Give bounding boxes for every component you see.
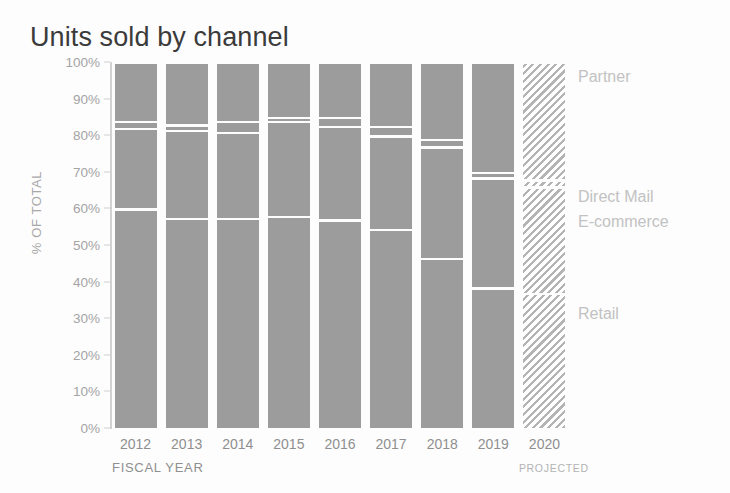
bar-segment-partner[interactable] xyxy=(115,64,157,120)
bar-segment-retail[interactable] xyxy=(115,211,157,428)
projected-annotation: PROJECTED xyxy=(519,462,570,474)
x-axis-tick-label: 2015 xyxy=(263,436,314,452)
bar-segment-e-commerce[interactable] xyxy=(115,130,157,208)
bar-segment-direct-mail[interactable] xyxy=(268,119,310,120)
page-title: Units sold by channel xyxy=(30,22,289,53)
x-axis-tick-label: 2014 xyxy=(212,436,263,452)
bar-column[interactable] xyxy=(370,62,412,428)
bar-segment-direct-mail[interactable] xyxy=(523,182,565,187)
y-axis-tick-label: 100% xyxy=(50,55,100,70)
bar-segment-e-commerce[interactable] xyxy=(166,132,208,217)
bar-segment-partner[interactable] xyxy=(421,64,463,138)
bar-segment-retail[interactable] xyxy=(217,220,259,428)
y-axis-tick-label: 80% xyxy=(50,128,100,143)
y-axis-tick-label: 90% xyxy=(50,91,100,106)
bar-segment-partner[interactable] xyxy=(370,64,412,126)
bar-segment-retail[interactable] xyxy=(166,220,208,428)
legend-label-retail: Retail xyxy=(578,305,619,323)
bar-segment-retail[interactable] xyxy=(268,218,310,428)
bar-segment-partner[interactable] xyxy=(319,64,361,117)
bar-stack xyxy=(523,62,565,428)
bar-stack xyxy=(217,62,259,428)
bar-column[interactable] xyxy=(319,62,361,428)
bar-segment-direct-mail[interactable] xyxy=(319,119,361,126)
bar-segment-partner[interactable] xyxy=(268,64,310,117)
bar-segment-retail[interactable] xyxy=(472,290,514,429)
chart-canvas: Units sold by channel % OF TOTAL 100%90%… xyxy=(0,0,730,493)
x-axis-tick-label: 2012 xyxy=(110,436,161,452)
bar-segment-direct-mail[interactable] xyxy=(115,123,157,128)
y-axis-tick-label: 10% xyxy=(50,384,100,399)
bar-column[interactable] xyxy=(523,62,565,428)
x-axis-tick-label: 2016 xyxy=(314,436,365,452)
y-axis-tick-label: 30% xyxy=(50,311,100,326)
bar-stack xyxy=(268,62,310,428)
bar-stack xyxy=(319,62,361,428)
bar-column[interactable] xyxy=(421,62,463,428)
legend-label-e-commerce: E-commerce xyxy=(578,213,669,231)
bar-segment-e-commerce[interactable] xyxy=(268,123,310,216)
x-axis-title: FISCAL YEAR xyxy=(112,460,204,475)
bar-stack xyxy=(166,62,208,428)
bar-segment-direct-mail[interactable] xyxy=(217,123,259,132)
legend-label-direct-mail: Direct Mail xyxy=(578,188,654,206)
bar-column[interactable] xyxy=(166,62,208,428)
bar-stack xyxy=(472,62,514,428)
bar-segment-e-commerce[interactable] xyxy=(319,128,361,219)
bar-segment-e-commerce[interactable] xyxy=(421,149,463,258)
bar-segment-e-commerce[interactable] xyxy=(523,189,565,293)
y-axis-tick-label: 70% xyxy=(50,164,100,179)
bar-segment-direct-mail[interactable] xyxy=(370,128,412,135)
bar-segment-direct-mail[interactable] xyxy=(421,141,463,146)
bar-segment-direct-mail[interactable] xyxy=(472,174,514,177)
bar-stack xyxy=(115,62,157,428)
y-axis-title: % OF TOTAL xyxy=(29,143,44,283)
y-axis-tick-label: 60% xyxy=(50,201,100,216)
bar-segment-e-commerce[interactable] xyxy=(217,134,259,218)
bar-stack xyxy=(421,62,463,428)
legend-label-partner: Partner xyxy=(578,68,630,86)
bar-segment-retail[interactable] xyxy=(421,260,463,428)
bar-segment-partner[interactable] xyxy=(472,64,514,171)
plot-area xyxy=(110,62,570,428)
bar-segment-e-commerce[interactable] xyxy=(472,180,514,287)
bar-segment-retail[interactable] xyxy=(523,295,565,428)
bar-segment-partner[interactable] xyxy=(166,64,208,124)
y-axis-tick-label: 50% xyxy=(50,238,100,253)
bar-column[interactable] xyxy=(268,62,310,428)
y-axis-tick-label: 40% xyxy=(50,274,100,289)
x-axis-tick-label: 2013 xyxy=(161,436,212,452)
y-axis-tick-label: 20% xyxy=(50,347,100,362)
x-axis-tick-label: 2019 xyxy=(468,436,519,452)
bar-column[interactable] xyxy=(472,62,514,428)
y-axis-tick-label: 0% xyxy=(50,421,100,436)
x-axis-tick-label: 2017 xyxy=(366,436,417,452)
bar-segment-retail[interactable] xyxy=(319,222,361,428)
bar-segment-direct-mail[interactable] xyxy=(166,127,208,130)
bar-segment-partner[interactable] xyxy=(217,64,259,120)
bar-stack xyxy=(370,62,412,428)
bar-segment-e-commerce[interactable] xyxy=(370,138,412,229)
bar-segment-partner[interactable] xyxy=(523,64,565,179)
bar-segment-retail[interactable] xyxy=(370,231,412,428)
bar-column[interactable] xyxy=(115,62,157,428)
bar-column[interactable] xyxy=(217,62,259,428)
y-axis-tick-group: 100%90%80%70%60%50%40%30%20%10%0% xyxy=(52,62,110,428)
x-axis-tick-label: 2018 xyxy=(417,436,468,452)
x-axis-tick-label: 2020 xyxy=(519,436,570,452)
